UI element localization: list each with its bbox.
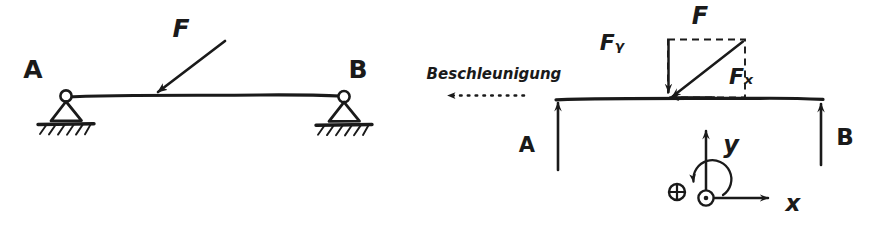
label-y-axis: y	[723, 131, 740, 159]
pin-hinge-a-icon	[60, 90, 71, 101]
statics-figure-svg: A B F Beschleunigung F Fᵧ Fₓ A B	[0, 0, 878, 227]
pin-hinge-b-icon	[338, 91, 349, 102]
label-beschleunigung: Beschleunigung	[427, 65, 562, 83]
plus-circle-icon	[669, 184, 685, 200]
label-support-b: B	[348, 55, 367, 84]
background	[0, 0, 878, 227]
z-axis-out-of-page-icon	[698, 190, 713, 205]
label-reaction-b: B	[836, 124, 854, 150]
label-force-f-left: F	[172, 14, 189, 43]
label-x-axis: x	[785, 190, 802, 216]
label-support-a: A	[23, 55, 43, 84]
label-reaction-a: A	[519, 133, 536, 157]
diagram-canvas: A B F Beschleunigung F Fᵧ Fₓ A B	[0, 0, 878, 227]
label-force-f-right: F	[692, 2, 709, 30]
label-force-fx: Fₓ	[729, 64, 754, 89]
label-force-fy: Fᵧ	[600, 30, 626, 55]
